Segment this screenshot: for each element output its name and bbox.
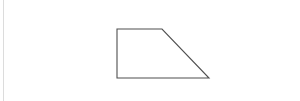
figure-canvas: Right trapezoid outline figure trapezoid [0, 0, 300, 101]
trapezoid-diagram [0, 0, 300, 101]
canvas-background [0, 0, 300, 101]
